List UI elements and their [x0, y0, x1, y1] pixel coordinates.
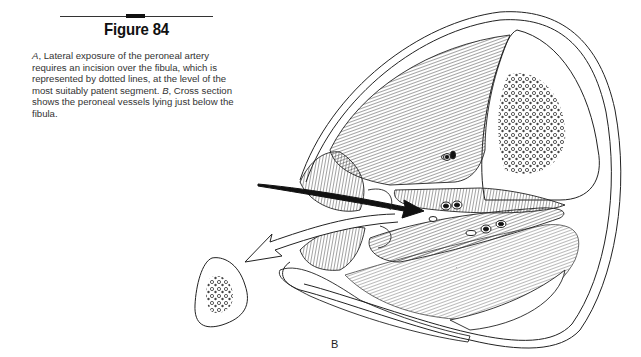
panel-label-b: B: [331, 338, 338, 350]
leg-cross-section-illustration: [0, 0, 641, 357]
resected-fibula-fragment: [195, 258, 248, 327]
